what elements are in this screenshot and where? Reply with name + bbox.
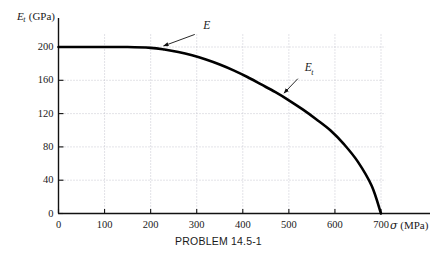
annotation-leaders-group [164, 34, 298, 93]
data-curve-group [59, 47, 382, 214]
annotation-symbol: E [203, 19, 210, 31]
x-tick-label: 0 [56, 220, 61, 231]
annotation-label-et: Et [305, 62, 314, 76]
x-tick-label: 300 [189, 220, 205, 231]
annotation-leader-et [284, 79, 298, 93]
x-tick-label: 100 [97, 220, 113, 231]
axis-ticks-group [59, 47, 382, 214]
x-tick-label: 700 [373, 220, 389, 231]
y-axis-unit: (GPa) [29, 10, 55, 22]
x-tick-label: 400 [235, 220, 251, 231]
y-tick-label: 160 [38, 75, 54, 86]
gridlines-group [59, 35, 386, 214]
annotation-leader-e [164, 34, 195, 46]
figure-caption: PROBLEM 14.5-1 [0, 235, 437, 247]
x-axis-title: σ (MPa) [390, 220, 428, 231]
x-tick-label: 600 [327, 220, 343, 231]
x-tick-label: 200 [143, 220, 159, 231]
tangent-modulus-curve [59, 47, 382, 214]
y-tick-label: 120 [38, 108, 54, 119]
y-tick-label: 200 [38, 42, 54, 53]
annotation-label-e: E [203, 20, 210, 32]
x-axis-unit: (MPa) [400, 219, 428, 231]
y-tick-label: 0 [48, 208, 53, 219]
x-tick-label: 500 [281, 220, 297, 231]
y-axis-title: Et (GPa) [17, 11, 55, 22]
figure-container: Et (GPa) σ (MPa) 01002003004005006007000… [0, 0, 437, 258]
chart-plot-area [0, 0, 437, 258]
x-axis-symbol: σ [390, 219, 398, 232]
y-tick-label: 80 [43, 142, 54, 153]
y-tick-label: 40 [43, 175, 54, 186]
